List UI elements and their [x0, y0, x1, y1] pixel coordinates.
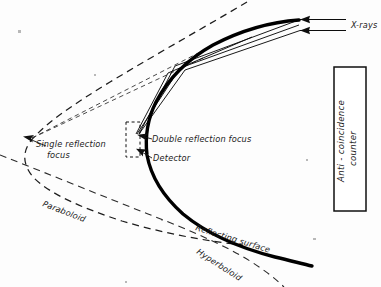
label-anti-coincidence-counter-line1: Anti - coincidence: [336, 100, 346, 183]
label-single-reflection-focus-line1: Single reflection: [36, 139, 106, 149]
label-paraboloid: Paraboloid: [41, 199, 87, 225]
xray-optics-diagram: X-rays Single reflection focus Double re…: [0, 0, 381, 287]
label-xrays: X-rays: [350, 20, 378, 30]
detector-outline[interactable]: [126, 122, 140, 157]
xray-arrowhead-1: [300, 16, 310, 23]
label-anti-coincidence-counter-line2: counter: [348, 131, 358, 166]
label-double-reflection-focus: Double reflection focus: [152, 134, 252, 144]
reflected-ray-paths: [136, 20, 300, 135]
hyperboloid-curve: [0, 155, 284, 287]
label-detector: Detector: [153, 153, 191, 163]
diagram-canvas: X-rays Single reflection focus Double re…: [0, 0, 381, 287]
xray-arrowhead-2: [300, 27, 310, 34]
single-reflection-ray-a: [30, 45, 214, 139]
label-single-reflection-focus-line2: focus: [47, 150, 70, 160]
label-hyperboloid: Hyperboloid: [195, 246, 244, 283]
incoming-xray-beams: [300, 16, 346, 34]
